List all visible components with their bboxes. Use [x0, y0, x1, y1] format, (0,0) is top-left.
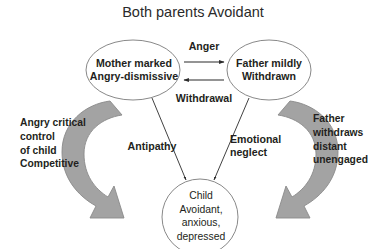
- anger-edge-label: Anger: [168, 40, 240, 53]
- emotional-neglect-edge-label: Emotional neglect: [230, 133, 296, 158]
- antipathy-edge-label: Antipathy: [116, 140, 188, 153]
- mother-node-label: Mother marked Angry-dismissive: [86, 57, 182, 82]
- child-node-label: Child Avoidant, anxious, depressed: [163, 189, 239, 244]
- left-side-label: Angry critical control of child Competit…: [20, 116, 118, 171]
- antipathy-arrow: [152, 98, 186, 180]
- right-side-label: Father withdraws distant unengaged: [313, 112, 386, 167]
- father-node-label: Father mildly Withdrawn: [226, 57, 312, 82]
- diagram-title: Both parents Avoidant: [0, 4, 386, 21]
- withdrawal-edge-label: Withdrawal: [158, 92, 250, 105]
- diagram-canvas: Both parents Avoidant Mother marked Angr…: [0, 0, 386, 249]
